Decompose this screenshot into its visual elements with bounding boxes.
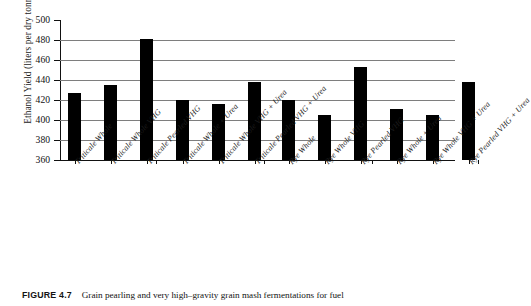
y-tick-label-420: 420 bbox=[16, 95, 50, 105]
bar bbox=[68, 93, 81, 160]
bar bbox=[140, 39, 153, 160]
y-tick-380 bbox=[54, 140, 60, 141]
x-axis-category-labels: Triticale WholeTriticale Whole VHGTritic… bbox=[0, 160, 479, 280]
y-tick-400 bbox=[54, 120, 60, 121]
y-tick-label-400: 400 bbox=[16, 115, 50, 125]
y-tick-label-480: 480 bbox=[16, 35, 50, 45]
y-tick-420 bbox=[54, 100, 60, 101]
y-tick-480 bbox=[54, 40, 60, 41]
y-tick-label-380: 380 bbox=[16, 135, 50, 145]
gridline-460 bbox=[60, 60, 455, 61]
y-tick-label-440: 440 bbox=[16, 75, 50, 85]
gridline-440 bbox=[60, 80, 455, 81]
figure-caption-label: FIGURE 4.7 bbox=[22, 290, 72, 300]
y-tick-360 bbox=[54, 160, 60, 161]
y-tick-460 bbox=[54, 60, 60, 61]
plot-area bbox=[60, 20, 455, 160]
y-tick-500 bbox=[54, 20, 60, 21]
y-tick-label-460: 460 bbox=[16, 55, 50, 65]
x-axis-label: Rye Pearled VHG + Urea bbox=[467, 96, 531, 166]
y-tick-440 bbox=[54, 80, 60, 81]
y-tick-label-500: 500 bbox=[16, 15, 50, 25]
figure-caption-text: Grain pearling and very high–gravity gra… bbox=[82, 290, 344, 300]
figure-caption: FIGURE 4.7 Grain pearling and very high–… bbox=[22, 290, 462, 301]
bar bbox=[354, 67, 367, 160]
gridline-480 bbox=[60, 40, 455, 41]
